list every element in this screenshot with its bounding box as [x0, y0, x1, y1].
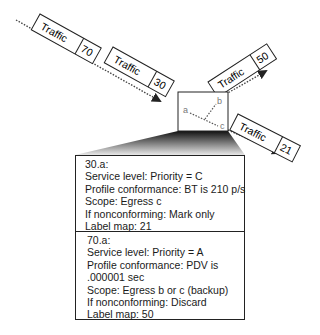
entry-nonconforming-action: If nonconforming: Discard [87, 296, 244, 308]
entry-profile-conformance-cont: .000001 sec [87, 271, 244, 283]
entry-title: 70.a: [87, 234, 244, 246]
traffic-tag-70: Traffic 70 [31, 14, 101, 64]
entry-label-map: Label map: 50 [87, 308, 244, 320]
entry-scope: Scope: Egress b or c (backup) [87, 284, 244, 296]
entry-service-level: Service level: Priority = C [85, 170, 244, 182]
entry-profile-conformance: Profile conformance: BT is 210 p/s [85, 183, 244, 195]
port-label-c: c [220, 121, 225, 131]
port-label-b: b [217, 96, 222, 106]
entry-service-level: Service level: Priority = A [87, 246, 244, 258]
port-label-a: a [183, 105, 188, 115]
entry-profile-conformance: Profile conformance: PDV is [87, 259, 244, 271]
traffic-tag-50: Traffic 50 [208, 44, 277, 97]
label-entry-30a: 30.a: Service level: Priority = C Profil… [75, 155, 245, 232]
entry-scope: Scope: Egress c [85, 195, 244, 207]
callout-connector [75, 131, 245, 155]
entry-title: 30.a: [85, 158, 244, 170]
entry-nonconforming-action: If nonconforming: Mark only [85, 208, 244, 220]
label-entry-70a: 70.a: Service level: Priority = A Profil… [75, 231, 245, 320]
